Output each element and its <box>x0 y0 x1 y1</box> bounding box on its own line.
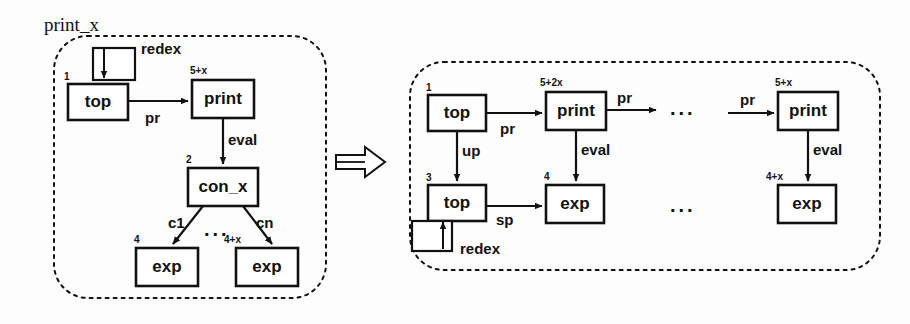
lhs-node-exp-right-port: 4+x <box>224 234 241 245</box>
rhs-redex-label: redex <box>460 240 501 257</box>
rewrite-arrow-group <box>336 147 385 177</box>
lhs-edge-eval-label: eval <box>228 131 257 148</box>
rhs-group: top 1 print 5+2x pr up eval top 3 redex <box>410 62 880 270</box>
lhs-node-exp-left-label: exp <box>152 257 181 276</box>
rhs-edge-up-label: up <box>462 142 480 159</box>
rhs-node-exp4-label: exp <box>560 194 589 213</box>
lhs-node-conx-port: 2 <box>186 154 192 165</box>
rhs-node-exp4-port: 4 <box>544 171 550 182</box>
rhs-ellipsis-bottom: ... <box>670 194 696 216</box>
rhs-node-top1-port: 1 <box>426 82 432 93</box>
lhs-node-print-port: 5+x <box>190 65 207 76</box>
lhs-redex-loop <box>93 48 135 80</box>
rhs-edge-eval-1-label: eval <box>581 141 610 158</box>
lhs-node-conx-label: con_x <box>198 177 248 196</box>
lhs-group: print_x redex top 1 print 5+x pr eval co… <box>44 14 326 298</box>
rhs-node-print2-port: 5+x <box>775 77 792 88</box>
lhs-node-exp-right-label: exp <box>252 257 281 276</box>
rhs-node-exp5-port: 4+x <box>766 171 783 182</box>
rhs-node-print1-label: print <box>557 101 595 120</box>
rhs-node-top3-label: top <box>444 193 470 212</box>
rhs-ellipsis-top: ... <box>670 97 696 119</box>
lhs-edge-c1-label: c1 <box>168 214 185 231</box>
rhs-node-print2-label: print <box>789 101 827 120</box>
rhs-node-print1-port: 5+2x <box>540 77 563 88</box>
figure-canvas: print_x redex top 1 print 5+x pr eval co… <box>0 0 910 324</box>
rhs-edge-sp-label: sp <box>496 211 514 228</box>
rhs-node-exp5-label: exp <box>792 194 821 213</box>
rhs-edge-pr-3-label: pr <box>740 91 755 108</box>
rhs-edge-pr-1-label: pr <box>500 120 515 137</box>
rhs-edge-pr-2-label: pr <box>617 89 632 106</box>
lhs-node-top-label: top <box>85 92 111 111</box>
rhs-edge-eval-2-label: eval <box>813 141 842 158</box>
lhs-edge-pr-label: pr <box>145 109 160 126</box>
lhs-edge-cn-label: cn <box>256 214 274 231</box>
rhs-redex-loop <box>412 221 452 251</box>
rewrite-rule-diagram: print_x redex top 1 print 5+x pr eval co… <box>0 0 910 324</box>
lhs-node-print-label: print <box>204 89 242 108</box>
rhs-node-top3-port: 3 <box>426 172 432 183</box>
rhs-node-top1-label: top <box>444 103 470 122</box>
lhs-region-label: print_x <box>44 14 99 35</box>
lhs-redex-label: redex <box>141 40 182 57</box>
lhs-node-exp-left-port: 4 <box>134 234 140 245</box>
lhs-node-top-port: 1 <box>64 71 70 82</box>
